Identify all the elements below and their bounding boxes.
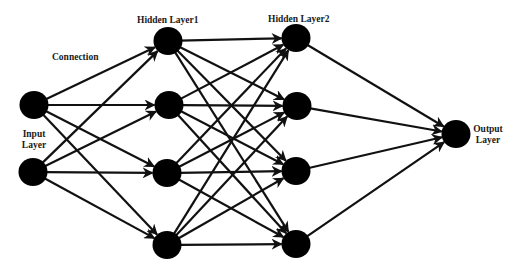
hidden-layer1-label: Hidden Layer1	[137, 15, 199, 26]
connection-edges	[42, 38, 445, 245]
connection-arrow	[306, 44, 443, 126]
connection-arrow	[179, 171, 282, 173]
input-layer-label: Input Layer	[14, 129, 54, 151]
connection-arrow	[175, 117, 287, 237]
neuron-node-layer2-0	[282, 24, 311, 52]
connection-arrow	[179, 244, 282, 245]
neuron-node-layer1-0	[154, 27, 183, 55]
connection-arrow	[44, 178, 155, 238]
input-layer-label-line1: Input	[14, 129, 54, 140]
connection-label: Connection	[52, 52, 98, 63]
connection-arrow	[306, 142, 444, 237]
hidden-layer2-label: Hidden Layer2	[268, 14, 330, 25]
connection-arrow	[42, 51, 158, 164]
neural-network-diagram	[0, 0, 515, 273]
connection-arrow	[308, 137, 442, 168]
neuron-node-layer2-3	[282, 230, 311, 258]
output-layer-label-line2: Layer	[470, 135, 506, 146]
connection-arrow	[178, 113, 284, 168]
neuron-node-layer1-2	[153, 159, 182, 187]
neuron-node-layer3-0	[442, 120, 471, 148]
neuron-node-layer2-2	[282, 157, 311, 185]
connection-arrow	[309, 108, 442, 131]
connection-arrow	[45, 172, 153, 173]
connection-arrow	[180, 38, 282, 40]
neuron-node-layer2-1	[283, 92, 312, 120]
connection-arrow	[42, 114, 157, 235]
neuron-node-layer0-1	[19, 158, 48, 186]
neuron-node-layer0-0	[20, 91, 49, 119]
output-layer-label-line1: Output	[470, 124, 506, 135]
neuron-node-layer1-1	[155, 91, 184, 119]
output-layer-label: Output Layer	[470, 124, 506, 146]
input-layer-label-line2: Layer	[14, 140, 54, 151]
neuron-node-layer1-3	[153, 231, 182, 259]
